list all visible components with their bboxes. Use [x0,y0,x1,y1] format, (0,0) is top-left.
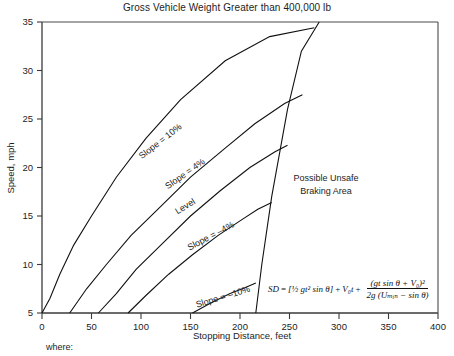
y-tick-label-15: 15 [22,210,33,221]
unsafe-braking-area-note: Possible Unsafe Braking Area [293,172,358,198]
curve-group [42,22,319,313]
formula-fraction: (gt sin θ + V₀)² 2g (Uₘᵢₙ − sin θ) [364,278,432,300]
formula-equals: = [281,284,286,294]
y-tick-label-25: 25 [22,113,33,124]
curve-unsafe-boundary [256,22,319,313]
curve-slope-10 [42,28,314,313]
y-tick-label-10: 10 [22,259,33,270]
curve-slope-4 [128,202,272,313]
formula-numerator: (gt sin θ + V₀)² [367,278,427,289]
formula-plus1: + [335,284,340,294]
y-tick-label-20: 20 [22,162,33,173]
stopping-distance-formula: SD = [½ gt² sin θ] + V₀t + (gt sin θ + V… [268,278,433,300]
x-tick-label-300: 300 [331,321,347,332]
unsafe-area-line1: Possible Unsafe [293,172,358,185]
x-axis-title: Stopping Distance, feet [193,330,292,341]
formula-term2: V₀t [342,284,353,294]
formula-plus2: + [355,284,360,294]
x-tick-label-50: 50 [86,321,97,332]
x-tick-label-350: 350 [381,321,397,332]
formula-term1: [½ gt² sin θ] [288,284,333,294]
y-tick-group: 5101520253035 [22,16,42,318]
x-tick-label-0: 0 [39,321,44,332]
chart-plot-area: 5101520253035 050100150200250300350400 S… [0,0,454,356]
formula-lhs: SD [268,284,279,294]
formula-denominator: 2g (Uₘᵢₙ − sin θ) [364,289,432,300]
y-axis-title: Speed, mph [5,142,16,193]
chart-figure: Gross Vehicle Weight Greater than 400,00… [0,0,454,356]
x-tick-label-100: 100 [133,321,149,332]
y-tick-label-30: 30 [22,65,33,76]
y-tick-label-35: 35 [22,16,33,27]
y-tick-label-5: 5 [28,307,33,318]
axis-frame [42,22,438,313]
unsafe-area-line2: Braking Area [293,185,358,198]
where-footnote: where: [46,342,73,352]
x-tick-label-400: 400 [430,321,446,332]
